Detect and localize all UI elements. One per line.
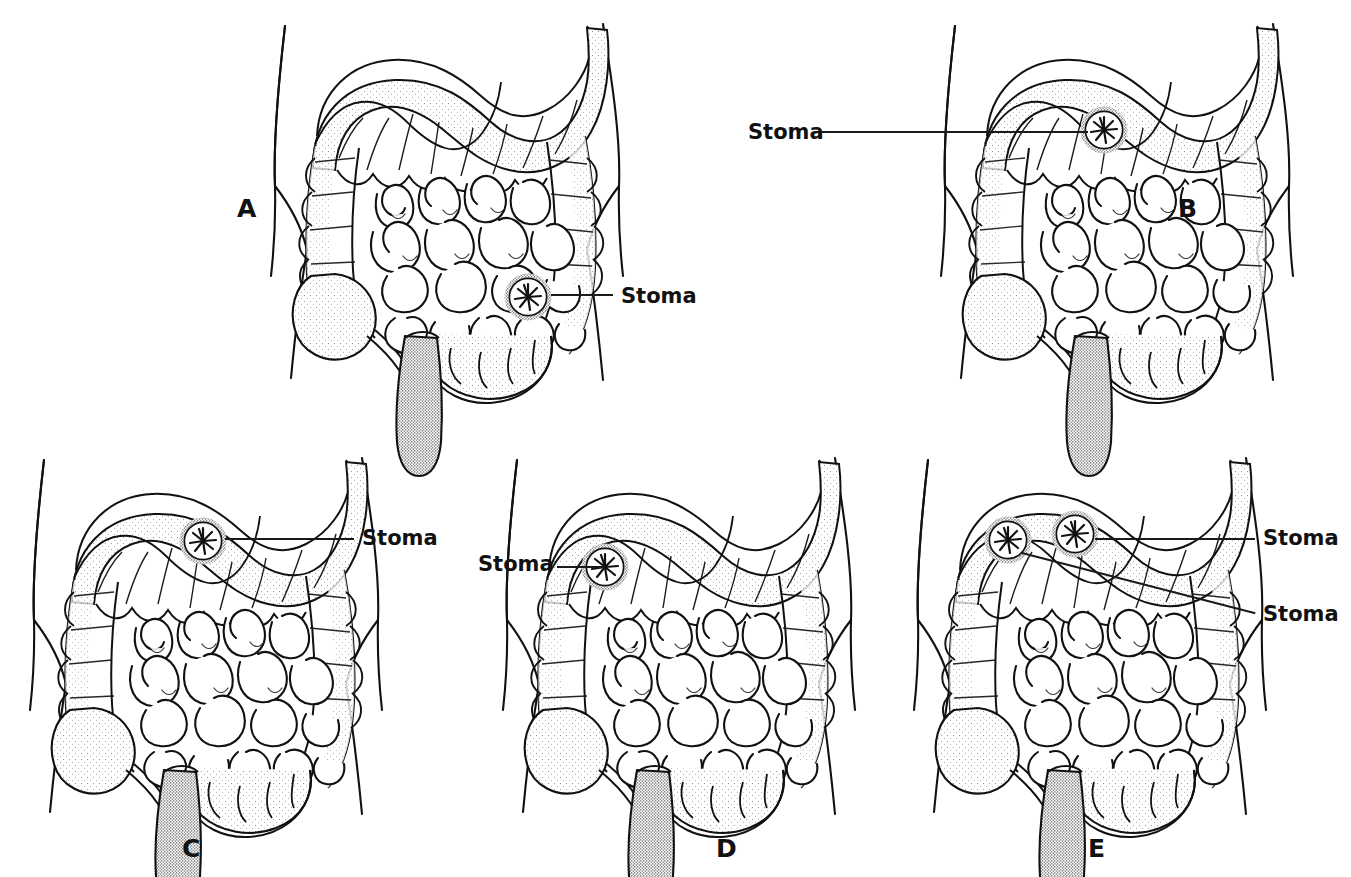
panel-c-illustration <box>14 452 404 824</box>
stoma-b1[interactable] <box>1083 109 1126 152</box>
stoma-e2[interactable] <box>987 519 1030 562</box>
panel-a <box>255 18 645 390</box>
abdomen-illustration <box>271 24 623 476</box>
panel-c <box>14 452 404 824</box>
panel-letter-d: D <box>716 836 737 861</box>
stoma-label-d1: Stoma <box>478 554 554 575</box>
panel-e <box>898 452 1288 824</box>
abdomen-illustration <box>941 24 1293 476</box>
panel-d-illustration <box>487 452 877 824</box>
panel-letter-a: A <box>237 196 257 221</box>
stoma-e1[interactable] <box>1054 513 1097 556</box>
leader-line-e1 <box>1095 538 1255 540</box>
stoma-c1[interactable] <box>182 520 225 563</box>
panel-letter-c: C <box>182 836 201 861</box>
stoma-label-e1: Stoma <box>1263 528 1339 549</box>
panel-a-illustration <box>255 18 645 390</box>
leader-line-b1 <box>822 131 1088 133</box>
stoma-label-e2: Stoma <box>1263 604 1339 625</box>
abdomen-illustration <box>503 458 855 877</box>
stoma-label-a1: Stoma <box>621 286 697 307</box>
panel-b <box>925 18 1315 390</box>
leader-line-c1 <box>225 538 354 540</box>
panel-d <box>487 452 877 824</box>
panel-letter-b: B <box>1178 196 1198 221</box>
panel-b-illustration <box>925 18 1315 390</box>
panel-e-illustration <box>898 452 1288 824</box>
stoma-a1[interactable] <box>507 276 550 319</box>
ostomy-sites-figure: Stoma A Stoma B Stoma C Stoma <box>0 0 1351 877</box>
panel-letter-e: E <box>1088 836 1106 861</box>
leader-line-a1 <box>551 294 613 296</box>
stoma-label-b1: Stoma <box>748 122 824 143</box>
stoma-label-c1: Stoma <box>362 528 438 549</box>
leader-line-d1 <box>557 566 605 568</box>
